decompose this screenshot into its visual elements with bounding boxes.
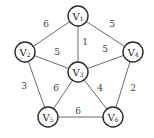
node-v2: V2	[15, 42, 35, 62]
edge-weight-label: 4	[97, 83, 103, 93]
edge-weight-label: 6	[53, 83, 59, 93]
weighted-graph-diagram: 6155536426 V1V2V3V4V5V6	[0, 0, 154, 138]
node-v3: V3	[68, 62, 88, 82]
edge-weight-label: 3	[21, 81, 27, 91]
node-v4: V4	[123, 42, 143, 62]
node-v6: V6	[103, 107, 123, 127]
edge-weight-label: 1	[82, 37, 88, 47]
edge-weight-label: 5	[102, 44, 108, 54]
edge-weight-label: 6	[43, 19, 49, 29]
edge-weight-label: 2	[130, 83, 136, 93]
node-v5: V5	[38, 107, 58, 127]
edge-weight-label: 6	[75, 106, 81, 116]
edge-weight-label: 5	[54, 47, 60, 57]
node-v1: V1	[68, 6, 88, 26]
edge-weight-label: 5	[109, 19, 115, 29]
